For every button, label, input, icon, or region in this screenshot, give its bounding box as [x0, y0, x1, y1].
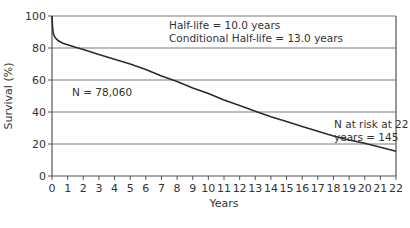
x-axis-title: Years: [208, 197, 238, 210]
n-total-annotation: N = 78,060: [72, 86, 132, 98]
x-tick-label: 12: [233, 182, 247, 195]
x-tick-label: 21: [373, 182, 387, 195]
y-tick-label: 20: [32, 138, 46, 151]
half-life-annotation: Half-life = 10.0 years: [169, 19, 280, 31]
x-tick-label: 8: [174, 182, 181, 195]
x-tick-label: 7: [158, 182, 165, 195]
y-tick-label: 60: [32, 74, 46, 87]
x-tick-label: 4: [111, 182, 118, 195]
x-tick-label: 14: [264, 182, 278, 195]
n-at-risk-annotation-line2: years = 145: [334, 131, 398, 143]
x-tick-label: 16: [295, 182, 309, 195]
x-axis-ticks: 012345678910111213141516171819202122: [49, 176, 404, 195]
x-tick-label: 2: [80, 182, 87, 195]
x-tick-label: 3: [95, 182, 102, 195]
y-axis-ticks: 020406080100: [25, 10, 52, 183]
y-axis-title: Survival (%): [2, 63, 15, 130]
y-tick-label: 80: [32, 42, 46, 55]
x-tick-label: 17: [311, 182, 325, 195]
x-tick-label: 9: [189, 182, 196, 195]
x-tick-label: 18: [326, 182, 340, 195]
x-tick-label: 10: [201, 182, 215, 195]
x-tick-label: 13: [248, 182, 262, 195]
y-tick-label: 0: [39, 170, 46, 183]
x-tick-label: 0: [49, 182, 56, 195]
x-tick-label: 19: [342, 182, 356, 195]
x-tick-label: 5: [127, 182, 134, 195]
y-tick-label: 100: [25, 10, 46, 23]
x-tick-label: 20: [358, 182, 372, 195]
y-tick-label: 40: [32, 106, 46, 119]
x-tick-label: 1: [64, 182, 71, 195]
x-tick-label: 6: [142, 182, 149, 195]
x-tick-label: 11: [217, 182, 231, 195]
n-at-risk-annotation-line1: N at risk at 22: [334, 118, 408, 130]
x-tick-label: 15: [280, 182, 294, 195]
conditional-half-life-annotation: Conditional Half-life = 13.0 years: [169, 32, 343, 44]
survival-chart: 020406080100 012345678910111213141516171…: [0, 0, 410, 228]
x-tick-label: 22: [389, 182, 403, 195]
